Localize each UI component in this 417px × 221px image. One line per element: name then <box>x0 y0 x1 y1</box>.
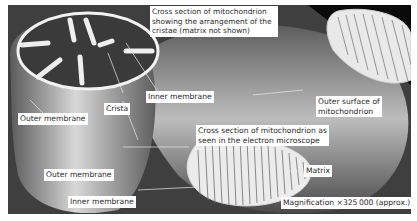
label-inner-membrane-bottom: Inner membrane <box>68 196 136 208</box>
label-inner-membrane-top: Inner membrane <box>146 91 214 103</box>
label-line: showing the arrangement of the <box>152 17 276 27</box>
label-matrix: Matrix <box>304 165 332 177</box>
label-outer-membrane-left: Outer membrane <box>18 113 88 125</box>
label-line: mitochondrion <box>318 107 380 117</box>
label-crista: Crista <box>104 103 130 115</box>
label-magnification: Magnification ×325 000 (approx.) <box>281 197 411 209</box>
label-line: seen in the electron microscope <box>198 136 327 146</box>
label-cross-section-cristae: Cross section of mitochondrion showing t… <box>150 6 278 37</box>
label-line: Outer surface of <box>318 97 380 107</box>
label-cross-section-em: Cross section of mitochondrion as seen i… <box>196 125 329 146</box>
mitochondrion-illustration: Cross section of mitochondrion showing t… <box>8 5 411 214</box>
label-line: Cross section of mitochondrion as <box>198 126 327 136</box>
label-line: cristae (matrix not shown) <box>152 26 276 36</box>
label-outer-surface: Outer surface of mitochondrion <box>316 96 382 117</box>
label-outer-membrane-bottom: Outer membrane <box>44 169 114 181</box>
label-line: Cross section of mitochondrion <box>152 7 276 17</box>
